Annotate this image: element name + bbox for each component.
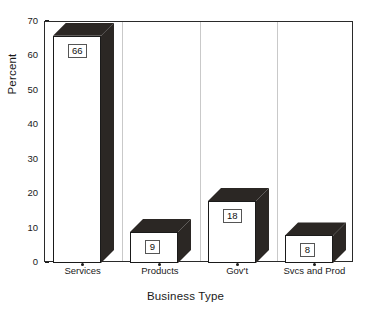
category-gridline — [122, 22, 123, 261]
y-tick-label: 30 — [16, 154, 38, 164]
bar-front-face — [53, 36, 101, 263]
bar: 8 — [285, 22, 346, 263]
x-category-label: Svcs and Prod — [269, 265, 359, 276]
x-axis-title: Business Type — [0, 290, 371, 302]
bar: 66 — [53, 22, 114, 263]
bar-value-label: 8 — [300, 243, 315, 257]
y-axis-title: Percent — [6, 34, 24, 114]
category-gridline — [200, 22, 201, 261]
bar: 9 — [130, 22, 191, 263]
bar-side-face — [101, 23, 114, 263]
y-tick-label: 10 — [16, 223, 38, 233]
y-tick-label: 70 — [16, 16, 38, 26]
y-tick-label: 0 — [16, 257, 38, 267]
plot-area: 669188 — [44, 21, 353, 262]
y-tick-label: 20 — [16, 188, 38, 198]
plot-inner: 669188 — [45, 22, 352, 261]
y-tick-label: 50 — [16, 85, 38, 95]
y-tick-label: 60 — [16, 50, 38, 60]
y-tick-label: 40 — [16, 119, 38, 129]
bar-side-face — [256, 188, 269, 263]
bar-value-label: 9 — [145, 240, 160, 254]
bar-value-label: 66 — [68, 44, 87, 58]
category-gridline — [277, 22, 278, 261]
bar-value-label: 18 — [223, 209, 242, 223]
bar: 18 — [208, 22, 269, 263]
bar-chart: Percent 010203040506070 669188 ServicesP… — [0, 0, 371, 313]
